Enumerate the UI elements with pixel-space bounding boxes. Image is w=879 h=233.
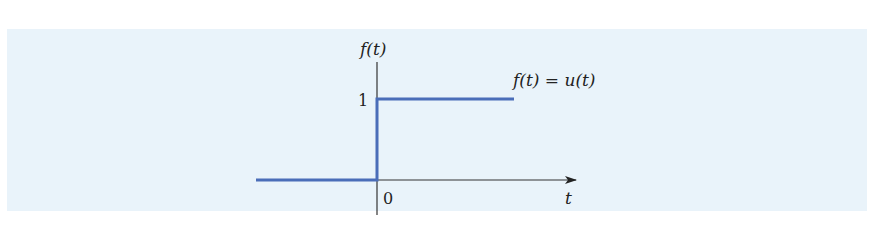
y-axis-label: f(t) [358, 39, 386, 59]
level-tick-label: 1 [358, 91, 368, 110]
step-function-diagram: f(t) 1 0 t f(t) = u(t) [0, 0, 879, 233]
x-axis-label: t [565, 188, 572, 208]
origin-label: 0 [383, 189, 393, 208]
unit-step-curve [256, 99, 514, 180]
function-label: f(t) = u(t) [511, 70, 596, 90]
